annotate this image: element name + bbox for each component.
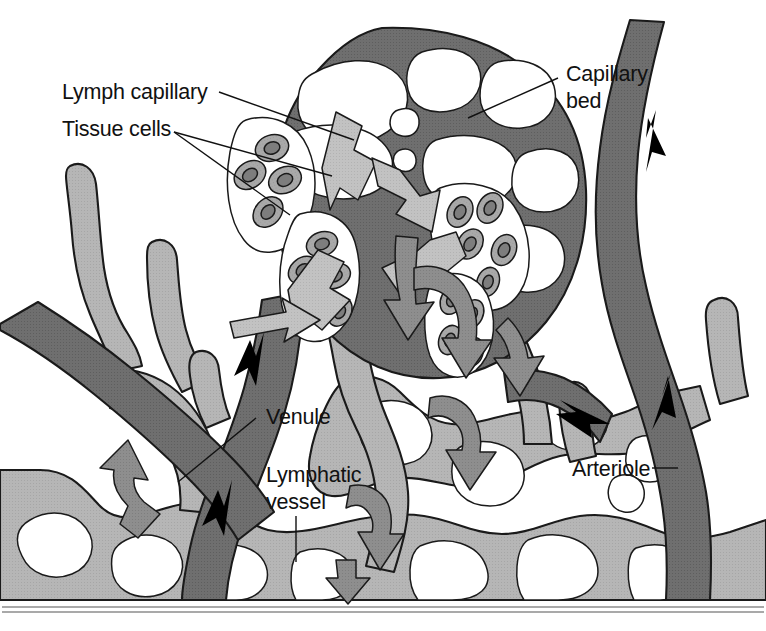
lymphatic-diagram-svg: Lymph capillary Tissue cells Capillary b… [0, 0, 766, 631]
label-arteriole: Arteriole [572, 457, 650, 481]
label-capillary-bed-line2: bed [566, 89, 601, 113]
label-venule: Venule [266, 405, 331, 429]
label-lymphatic-vessel-line1: Lymphatic [266, 463, 362, 487]
label-capillary-bed-line1: Capillary [566, 62, 648, 86]
label-lymphatic-vessel-line2: vessel [266, 490, 326, 514]
label-tissue-cells: Tissue cells [62, 117, 171, 141]
figure-root: Lymph capillary Tissue cells Capillary b… [0, 0, 766, 631]
label-lymph-capillary: Lymph capillary [62, 80, 208, 104]
